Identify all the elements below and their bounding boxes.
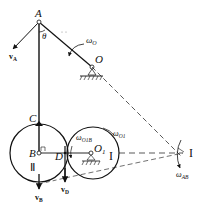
label-omega-O1: ωO1 xyxy=(113,129,126,139)
label-C: C xyxy=(29,112,37,124)
label-vA: vA xyxy=(9,52,17,62)
label-B: B xyxy=(29,147,36,159)
link-AO xyxy=(39,22,92,67)
label-O1: O1 xyxy=(94,142,105,156)
label-vB: vB xyxy=(35,193,43,203)
omega-O1B-arrow xyxy=(71,146,72,158)
joint-A xyxy=(37,20,41,24)
label-wheel-I: I xyxy=(109,149,113,163)
label-D: D xyxy=(54,150,63,162)
label-omega-AB: ωAB xyxy=(176,170,189,180)
label-A: A xyxy=(34,7,42,19)
label-omega-O: ωO xyxy=(86,35,97,46)
pivot-O1 xyxy=(89,151,93,155)
label-I-center: I xyxy=(189,146,193,160)
kinematics-diagram: A θ O C B D O1 I Ⅱ I ωO ωO1 ωO1B ωAB vA … xyxy=(0,0,208,211)
label-omega-O1B: ωO1B xyxy=(76,133,92,143)
velocity-vA-arrow xyxy=(13,22,39,49)
label-wheel-II: Ⅱ xyxy=(30,161,35,173)
diagram-canvas: A θ O C B D O1 I Ⅱ I ωO ωO1 ωO1B ωAB vA … xyxy=(0,0,208,211)
dashed-line-D-I xyxy=(65,153,183,178)
joint-B xyxy=(37,151,41,155)
label-O: O xyxy=(95,53,103,65)
dashed-line-O-I xyxy=(92,67,182,157)
label-theta: θ xyxy=(42,31,47,41)
label-vD: vD xyxy=(61,185,69,195)
right-angle-mark xyxy=(41,147,45,151)
